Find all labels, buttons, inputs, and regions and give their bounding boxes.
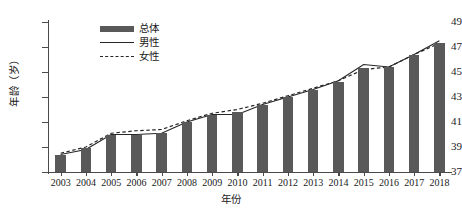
x-tick-mark <box>364 172 365 176</box>
x-tick-mark <box>111 172 112 176</box>
x-tick-mark <box>212 172 213 176</box>
bar <box>257 105 268 173</box>
bar <box>384 67 395 172</box>
x-tick-mark <box>439 172 440 176</box>
bar <box>55 155 66 173</box>
x-tick-mark <box>162 172 163 176</box>
bar <box>333 82 344 172</box>
x-axis-line <box>48 172 452 173</box>
x-tick-mark <box>187 172 188 176</box>
bar <box>207 115 218 173</box>
x-tick-mark <box>61 172 62 176</box>
bar <box>283 97 294 172</box>
age-by-year-chart: 49474543413937 年龄（岁） 2003200420052006200… <box>0 0 462 218</box>
y-axis-title: 年龄（岁） <box>6 44 21 118</box>
legend-item-label: 男性 <box>139 36 159 49</box>
x-tick-mark <box>414 172 415 176</box>
bar-swatch-icon <box>100 22 134 35</box>
legend-item-female: 女性 <box>100 49 159 63</box>
x-tick-mark <box>86 172 87 176</box>
bar <box>131 135 142 173</box>
x-tick-mark <box>389 172 390 176</box>
bar <box>106 135 117 173</box>
bar <box>434 43 445 172</box>
bar <box>156 133 167 172</box>
x-tick-mark <box>136 172 137 176</box>
x-axis-title: 年份 <box>0 191 462 206</box>
dashed-line-swatch-icon <box>100 50 134 63</box>
bar <box>308 90 319 173</box>
solid-line-swatch-icon <box>100 36 134 49</box>
legend-item-label: 总体 <box>139 22 159 35</box>
legend-item-male: 男性 <box>100 35 159 49</box>
bar <box>409 55 420 173</box>
legend-item-label: 女性 <box>139 50 159 63</box>
x-tick-mark <box>237 172 238 176</box>
x-tick-mark <box>338 172 339 176</box>
bar <box>182 122 193 172</box>
bar <box>358 68 369 172</box>
x-tick-mark <box>313 172 314 176</box>
chart-legend: 总体 男性 女性 <box>100 21 159 63</box>
bar <box>81 148 92 172</box>
bar <box>232 112 243 172</box>
x-tick-mark <box>263 172 264 176</box>
x-tick-mark <box>288 172 289 176</box>
legend-item-total: 总体 <box>100 21 159 35</box>
x-tick-label: 2018 <box>422 177 456 188</box>
y-tick-mark <box>42 172 48 173</box>
